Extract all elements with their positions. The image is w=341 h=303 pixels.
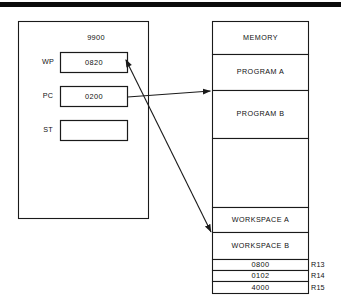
memory-cell-label-workspace-a: WORKSPACE A [232, 215, 290, 224]
cpu-block-title: 9900 [87, 33, 105, 42]
memory-register-row-r14: 0102 R14 [213, 271, 325, 282]
register-box-st[interactable] [61, 121, 128, 141]
memory-register-value-r13: 0800 [251, 260, 269, 269]
memory-cell-empty[interactable] [213, 139, 309, 208]
connector-arrows [126, 60, 211, 232]
memory-register-name-r15: R15 [311, 283, 325, 292]
memory-cell-label-program-a: PROGRAM A [237, 67, 285, 76]
memory-register-value-r14: 0102 [251, 271, 269, 280]
register-label-st: ST [43, 125, 53, 134]
memory-block: MEMORY PROGRAM A PROGRAM B WORKSPACE A W… [213, 22, 325, 294]
register-label-wp: WP [42, 57, 54, 66]
memory-cell-label-workspace-b: WORKSPACE B [232, 241, 290, 250]
memory-cell-label-program-b: PROGRAM B [237, 109, 285, 118]
memory-register-value-r15: 4000 [251, 283, 269, 292]
memory-register-row-r13: 0800 R13 [213, 260, 325, 271]
memory-register-row-r15: 4000 R15 [213, 282, 325, 294]
diagram-root: 9900 WP 0820 PC 0200 ST [0, 0, 341, 303]
cpu-block: 9900 WP 0820 PC 0200 ST [19, 22, 149, 219]
register-row-pc: PC 0200 [43, 87, 128, 107]
register-label-pc: PC [43, 91, 53, 100]
memory-register-name-r14: R14 [311, 271, 325, 280]
register-value-pc: 0200 [85, 92, 103, 101]
register-row-wp: WP 0820 [42, 53, 127, 73]
memory-cell-label-memory: MEMORY [243, 33, 278, 42]
memory-map-diagram: 9900 WP 0820 PC 0200 ST [0, 0, 341, 303]
memory-register-name-r13: R13 [311, 260, 325, 269]
connector-wp-to-workspace-b [126, 60, 211, 232]
register-row-st: ST [43, 121, 127, 141]
connector-pc-to-program-b [128, 91, 211, 97]
register-value-wp: 0820 [85, 58, 103, 67]
